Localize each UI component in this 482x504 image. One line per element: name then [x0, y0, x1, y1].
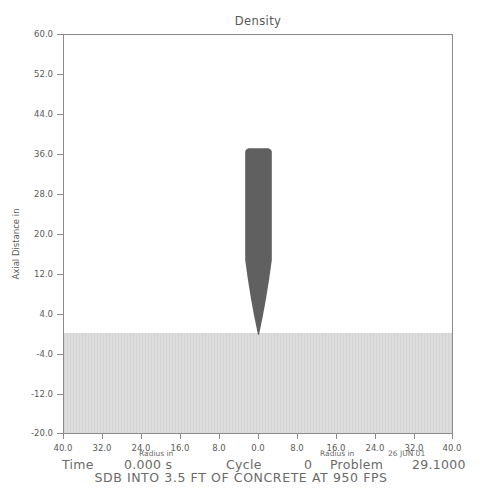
y-axis-title: Axial Distance in: [11, 184, 21, 304]
x-tick-mark: [141, 434, 142, 439]
x-tick-mark: [219, 434, 220, 439]
y-axis: Axial Distance in 60.0 52.0 44.0 36.0 28…: [0, 34, 63, 434]
x-tick-mark: [180, 434, 181, 439]
y-tick-label: 12.0: [11, 269, 53, 279]
y-tick-label: -12.0: [11, 389, 53, 399]
x-tick-mark: [336, 434, 337, 439]
y-tick-label: 44.0: [11, 109, 53, 119]
footer-annotations: Radius in Radius in 26 JUN 01 Time 0.000…: [0, 449, 482, 504]
concrete-target-region: [64, 333, 452, 433]
plot-subtitle: SDB INTO 3.5 FT OF CONCRETE AT 950 FPS: [0, 470, 482, 485]
y-tick-label: 20.0: [11, 229, 53, 239]
x-tick-mark: [102, 434, 103, 439]
page-title: Density: [63, 14, 453, 28]
y-tick-label: 28.0: [11, 189, 53, 199]
y-tick-label: 4.0: [11, 309, 53, 319]
y-tick-label: 36.0: [11, 149, 53, 159]
x-tick-mark: [63, 434, 64, 439]
density-plot-figure: Density Axial Distance in 60.0 52.0 44.0…: [0, 0, 482, 504]
sdb-penetrator-region: [243, 148, 274, 336]
y-tick-label: 60.0: [11, 29, 53, 39]
y-tick-label: 52.0: [11, 69, 53, 79]
x-tick-mark: [258, 434, 259, 439]
y-tick-label: -4.0: [11, 349, 53, 359]
x-tick-mark: [375, 434, 376, 439]
x-tick-mark: [452, 434, 453, 439]
y-tick-label: -20.0: [11, 428, 53, 438]
x-tick-mark: [297, 434, 298, 439]
x-tick-mark: [414, 434, 415, 439]
plot-area: [63, 34, 453, 434]
